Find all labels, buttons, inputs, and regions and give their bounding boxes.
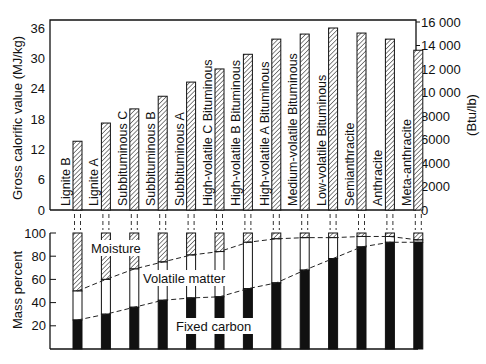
moisture-segment bbox=[414, 233, 423, 240]
fixed-carbon-segment bbox=[130, 307, 139, 349]
top-y-tick-label: 0 bbox=[38, 203, 45, 218]
top-y-tick-label: 24 bbox=[31, 81, 45, 96]
calorific-bar bbox=[158, 96, 167, 210]
top-y2-tick-label: 6000 bbox=[421, 132, 450, 147]
calorific-bar bbox=[215, 69, 224, 210]
volatile-matter-segment bbox=[300, 238, 309, 270]
top-y2-tick-label: 12 000 bbox=[421, 62, 461, 77]
category-label: High-volatile A Bituminous bbox=[258, 61, 272, 206]
category-label: High-volatile B Bituminous bbox=[229, 60, 243, 206]
calorific-bar bbox=[101, 123, 110, 210]
fixed-carbon-segment bbox=[329, 259, 338, 349]
calorific-bar bbox=[243, 54, 252, 210]
top-y2-axis-title: (Btu/lb) bbox=[464, 94, 479, 136]
fixed-carbon-segment bbox=[101, 314, 110, 349]
moisture-label: Moisture bbox=[91, 241, 141, 256]
volatile-matter-segment bbox=[357, 236, 366, 246]
moisture-segment bbox=[329, 233, 338, 238]
fixed-carbon-segment bbox=[357, 247, 366, 349]
bottom-chart: 20406080100 Mass percent Moisture Volati… bbox=[10, 226, 423, 350]
calorific-bar bbox=[300, 34, 309, 210]
top-y-tick-label: 30 bbox=[31, 51, 45, 66]
category-label: Lignite A bbox=[87, 157, 101, 206]
moisture-segment bbox=[243, 233, 252, 242]
bottom-y-axis-title: Mass percent bbox=[10, 251, 25, 329]
top-y-tick-label: 18 bbox=[31, 112, 45, 127]
category-label: Meta-anthracite bbox=[400, 119, 414, 206]
volatile-matter-segment bbox=[329, 238, 338, 259]
fixed-carbon-segment bbox=[158, 300, 167, 349]
category-label: High-volatile C Bituminous bbox=[201, 59, 215, 206]
top-y-tick-label: 6 bbox=[38, 172, 45, 187]
category-label: Medium-volatile Bituminous bbox=[286, 53, 300, 206]
calorific-bar bbox=[385, 39, 394, 210]
volatile-matter-segment bbox=[73, 291, 82, 320]
calorific-bar bbox=[272, 39, 281, 210]
moisture-segment bbox=[73, 233, 82, 291]
top-y2-tick-label: 2000 bbox=[421, 179, 450, 194]
volatile-matter-segment bbox=[272, 239, 281, 283]
top-y-axis-title: Gross calorific value (MJ/kg) bbox=[10, 36, 25, 200]
category-label: Subbituminous B bbox=[144, 111, 158, 206]
volatile-matter-label: Volatile matter bbox=[143, 271, 226, 286]
fixed-carbon-segment bbox=[385, 242, 394, 349]
moisture-segment bbox=[158, 233, 167, 262]
fixed-carbon-segment bbox=[300, 270, 309, 349]
connector-dashes bbox=[75, 214, 422, 230]
calorific-bar bbox=[414, 50, 423, 210]
category-label: Subbituminous C bbox=[116, 111, 130, 206]
category-label: Subbituminous A bbox=[173, 112, 187, 206]
moisture-segment bbox=[215, 233, 224, 252]
moisture-segment bbox=[101, 233, 110, 279]
volatile-matter-segment bbox=[243, 242, 252, 288]
top-y2-tick-label: 8000 bbox=[421, 109, 450, 124]
calorific-bar bbox=[130, 109, 139, 210]
moisture-segment bbox=[357, 233, 366, 236]
calorific-bar bbox=[73, 141, 82, 210]
fixed-carbon-segment bbox=[272, 283, 281, 349]
moisture-segment bbox=[187, 233, 196, 255]
top-y2-tick-label: 4000 bbox=[421, 156, 450, 171]
calorific-bar bbox=[187, 82, 196, 210]
bottom-y-tick-label: 100 bbox=[24, 226, 46, 241]
moisture-segment bbox=[272, 233, 281, 239]
top-left-ticks: 061218243036 bbox=[31, 21, 45, 218]
top-y2-tick-label: 10 000 bbox=[421, 85, 461, 100]
top-y2-tick-label: 16 000 bbox=[421, 15, 461, 30]
fixed-carbon-segment bbox=[414, 242, 423, 349]
fixed-carbon-segment bbox=[73, 320, 82, 349]
top-y-tick-label: 36 bbox=[31, 21, 45, 36]
category-label: Anthracite bbox=[371, 150, 385, 206]
bottom-y-tick-label: 20 bbox=[32, 318, 46, 333]
category-label: Semianthracite bbox=[343, 123, 357, 206]
top-chart: 061218243036 0200040006000800010 00012 0… bbox=[10, 15, 479, 218]
bottom-y-tick-label: 40 bbox=[32, 295, 46, 310]
fixed-carbon-label: Fixed carbon bbox=[176, 319, 251, 334]
category-label: Low-volatile Bituminous bbox=[315, 75, 329, 206]
calorific-bar bbox=[357, 33, 366, 210]
top-y-tick-label: 12 bbox=[31, 142, 45, 157]
category-label: Lignite B bbox=[59, 157, 73, 206]
moisture-segment bbox=[385, 233, 394, 236]
top-y2-tick-label: 14 000 bbox=[421, 38, 461, 53]
calorific-bar bbox=[329, 28, 338, 210]
moisture-segment bbox=[300, 233, 309, 238]
coal-rank-chart: 061218243036 0200040006000800010 00012 0… bbox=[0, 0, 486, 364]
bottom-y-tick-label: 60 bbox=[32, 272, 46, 287]
bottom-y-tick-label: 80 bbox=[32, 249, 46, 264]
volatile-matter-segment bbox=[130, 269, 139, 307]
volatile-matter-segment bbox=[101, 279, 110, 314]
